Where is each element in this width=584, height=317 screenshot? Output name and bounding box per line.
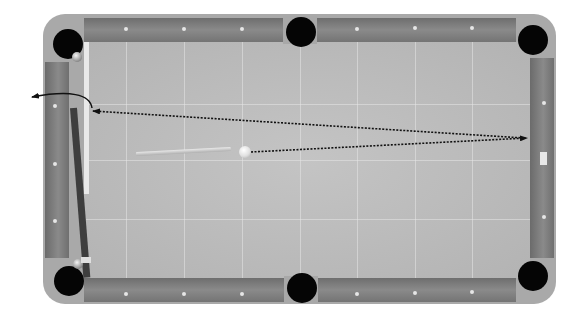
aim-guide-overlay (0, 0, 584, 317)
aim-line-to-right-cushion (251, 138, 527, 152)
exit-arrow (32, 94, 92, 108)
aim-line-reflected (93, 111, 524, 138)
